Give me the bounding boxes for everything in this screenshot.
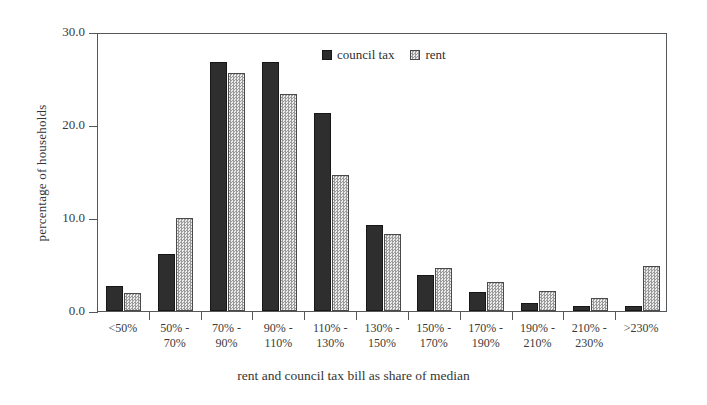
bar-council-tax <box>158 254 175 311</box>
legend-item: rent <box>410 47 445 63</box>
bar-chart-figure: percentage of households 0.010.020.030.0… <box>0 0 707 405</box>
x-axis-tick-label: 190% - 210% <box>512 321 564 351</box>
bar-rent <box>487 282 504 311</box>
x-axis-tick <box>563 312 564 320</box>
x-axis-tick <box>149 312 150 320</box>
x-axis-tick-label: <50% <box>97 321 149 336</box>
x-axis-tick-label: 210% - 230% <box>563 321 615 351</box>
x-axis-tick <box>201 312 202 320</box>
x-axis-tick-label: 70% - 90% <box>201 321 253 351</box>
bar-council-tax <box>417 275 434 311</box>
legend-label: rent <box>425 47 445 63</box>
bar-council-tax <box>521 303 538 311</box>
bar-rent <box>539 291 556 311</box>
bar-rent <box>643 266 660 311</box>
bar-council-tax <box>625 306 642 311</box>
x-axis-tick-label: >230% <box>615 321 667 336</box>
y-axis-tick-label: 0.0 <box>33 303 85 319</box>
x-axis-title: rent and council tax bill as share of me… <box>0 368 707 384</box>
bar-rent <box>228 73 245 311</box>
x-axis-tick <box>304 312 305 320</box>
chart-legend: council taxrent <box>322 47 446 63</box>
bar-council-tax <box>210 62 227 311</box>
x-axis-tick <box>252 312 253 320</box>
x-axis-tick <box>615 312 616 320</box>
x-axis-tick <box>460 312 461 320</box>
bar-council-tax <box>573 306 590 311</box>
legend-swatch-rent <box>410 50 420 60</box>
x-axis-tick <box>408 312 409 320</box>
x-axis-tick-label: 90% - 110% <box>252 321 304 351</box>
x-axis-tick-label: 170% - 190% <box>460 321 512 351</box>
bar-rent <box>280 94 297 311</box>
bar-rent <box>124 293 141 311</box>
x-axis-tick-label: 150% - 170% <box>408 321 460 351</box>
x-axis-tick-label: 110% - 130% <box>304 321 356 351</box>
x-axis-tick-label: 50% - 70% <box>149 321 201 351</box>
x-axis-tick <box>356 312 357 320</box>
x-axis-tick-label: 130% - 150% <box>356 321 408 351</box>
bar-council-tax <box>366 225 383 311</box>
bar-council-tax <box>469 292 486 311</box>
y-axis-tick-label: 30.0 <box>33 24 85 40</box>
legend-label: council tax <box>337 47 394 63</box>
bar-rent <box>332 175 349 311</box>
bar-rent <box>591 298 608 311</box>
bar-rent <box>435 268 452 311</box>
y-axis-tick-label: 10.0 <box>33 210 85 226</box>
legend-item: council tax <box>322 47 394 63</box>
x-axis-tick <box>512 312 513 320</box>
bar-rent <box>384 234 401 311</box>
legend-swatch-council <box>322 50 332 60</box>
bar-council-tax <box>314 113 331 311</box>
y-axis-title: percentage of households <box>34 53 50 293</box>
bar-council-tax <box>262 62 279 311</box>
bar-council-tax <box>106 286 123 311</box>
bar-rent <box>176 218 193 311</box>
plot-area <box>97 33 667 312</box>
y-axis-tick-label: 20.0 <box>33 117 85 133</box>
